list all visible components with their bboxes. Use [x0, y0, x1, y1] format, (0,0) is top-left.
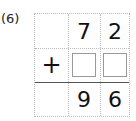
problem-number: (6)	[1, 11, 19, 26]
addition-grid: 7 2 + 9 6	[34, 13, 130, 117]
top-digit-ones: 2	[100, 14, 130, 48]
answer-box-ones[interactable]	[103, 53, 127, 77]
answer-cell-ones	[100, 48, 130, 82]
top-digit-hundreds	[35, 14, 68, 48]
answer-cell-tens	[68, 48, 100, 82]
result-digit-hundreds	[35, 82, 68, 117]
top-digit-tens: 7	[68, 14, 100, 48]
result-digit-tens: 9	[68, 82, 100, 117]
result-digit-ones: 6	[100, 82, 130, 117]
answer-box-tens[interactable]	[72, 53, 96, 77]
plus-sign: +	[35, 48, 68, 82]
